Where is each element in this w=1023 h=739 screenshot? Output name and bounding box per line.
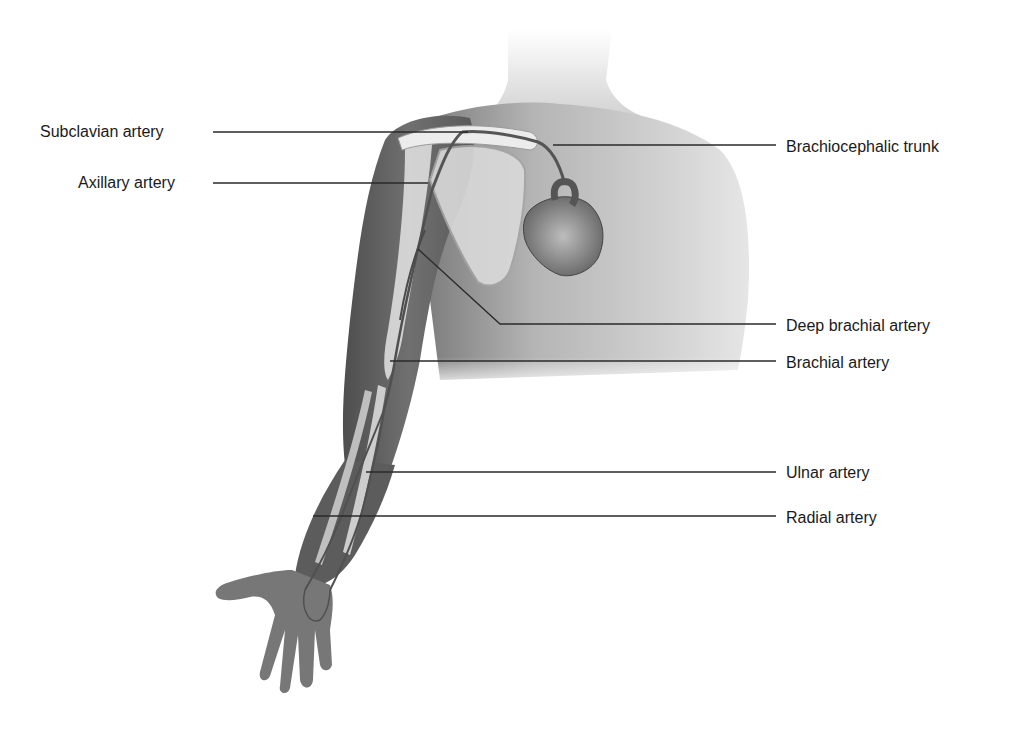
label-axillary-artery: Axillary artery bbox=[78, 174, 175, 192]
hand bbox=[216, 570, 333, 693]
label-brachial-artery: Brachial artery bbox=[786, 354, 889, 372]
anatomy-diagram: Subclavian artery Axillary artery Brachi… bbox=[0, 0, 1023, 739]
label-subclavian-artery: Subclavian artery bbox=[40, 123, 164, 141]
label-brachiocephalic-trunk: Brachiocephalic trunk bbox=[786, 138, 939, 156]
label-deep-brachial-artery: Deep brachial artery bbox=[786, 317, 930, 335]
label-ulnar-artery: Ulnar artery bbox=[786, 464, 870, 482]
label-radial-artery: Radial artery bbox=[786, 509, 877, 527]
